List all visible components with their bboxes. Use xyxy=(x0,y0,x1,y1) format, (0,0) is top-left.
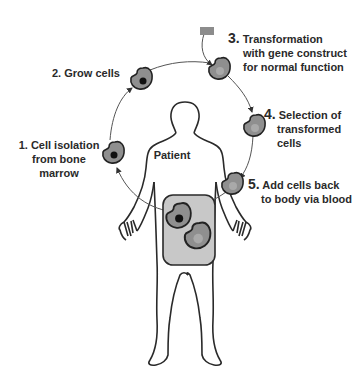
step-4-label: 4. Selection of transformed cells xyxy=(264,107,341,150)
step-1-line-1: Cell isolation xyxy=(31,139,99,151)
step-3-line-3: for normal function xyxy=(228,60,347,74)
step-1-line-2: from bone xyxy=(18,152,100,166)
step-5-line-2: to body via blood xyxy=(248,192,352,206)
step-2-number: 2. xyxy=(52,67,61,79)
step-1-label: 1. Cell isolation from bone marrow xyxy=(18,138,100,180)
step-4-line-2: transformed xyxy=(264,122,341,136)
step-5-number: 5. xyxy=(248,176,260,192)
gene-construct-icon xyxy=(200,27,214,35)
patient-label: Patient xyxy=(154,148,191,162)
step-4-number: 4. xyxy=(264,106,276,122)
cell-step-2-icon xyxy=(131,68,152,90)
step-5-label: 5. Add cells back to body via blood xyxy=(248,177,352,206)
step-1-number: 1. xyxy=(19,139,28,151)
cell-step-1-icon xyxy=(103,142,124,164)
gene-therapy-diagram: Patient 1. Cell isolation from bone marr… xyxy=(0,0,364,383)
step-2-line-1: Grow cells xyxy=(64,67,120,79)
step-2-label: 2. Grow cells xyxy=(52,66,120,80)
step-3-label: 3. Transformation with gene construct fo… xyxy=(228,31,347,74)
step-4-line-3: cells xyxy=(264,136,341,150)
step-1-line-3: marrow xyxy=(18,166,100,180)
step-5-line-1: Add cells back xyxy=(262,179,339,191)
step-3-line-2: with gene construct xyxy=(228,46,347,60)
step-3-line-1: Transformation xyxy=(243,33,323,45)
cell-step-4-icon xyxy=(244,115,265,137)
cell-step-3-icon xyxy=(209,58,230,80)
step-3-number: 3. xyxy=(228,30,240,46)
step-4-line-1: Selection of xyxy=(279,109,341,121)
